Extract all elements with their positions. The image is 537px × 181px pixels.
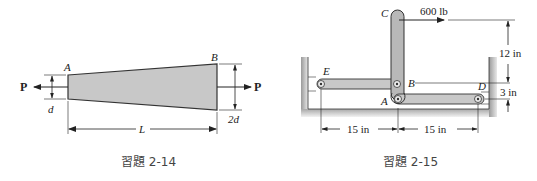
link-ad	[394, 94, 484, 104]
pin-b-center	[396, 83, 398, 85]
length-l-label: L	[138, 123, 145, 135]
diameter-2d-label: 2d	[228, 113, 240, 125]
link-eb	[317, 79, 401, 89]
point-d-label: D	[477, 80, 486, 92]
figure-caption: 習題 2-15	[383, 155, 438, 169]
force-label-right: P	[254, 80, 261, 94]
span-ea-label: 15 in	[347, 123, 370, 135]
pin-d-center	[477, 98, 479, 100]
point-b-label: B	[211, 51, 218, 63]
force-label-left: P	[20, 80, 27, 94]
support-bracket-e	[308, 77, 316, 91]
right-wall	[489, 57, 497, 117]
point-a-label: A	[380, 95, 388, 107]
pin-e-center	[320, 83, 322, 85]
point-c-label: C	[381, 7, 389, 19]
figure-caption: 習題 2-14	[121, 155, 176, 169]
point-a-label: A	[63, 61, 71, 73]
height-3in-label: 3 in	[500, 86, 517, 98]
point-b-label: B	[408, 77, 415, 89]
span-ad-label: 15 in	[424, 123, 447, 135]
tapered-bar	[68, 64, 217, 110]
force-label: 600 lb	[420, 5, 448, 17]
height-12in-label: 12 in	[499, 47, 522, 59]
left-wall	[301, 57, 308, 111]
figure-2-14: P P A B d 2d L 習題 2-14	[20, 51, 261, 169]
figure-2-15: 600 lb 12 in 3 in C E B D A 15 in 15 in …	[301, 5, 522, 169]
pin-a-center	[397, 98, 399, 100]
point-e-label: E	[322, 65, 330, 77]
diameter-d-label: d	[48, 103, 54, 115]
